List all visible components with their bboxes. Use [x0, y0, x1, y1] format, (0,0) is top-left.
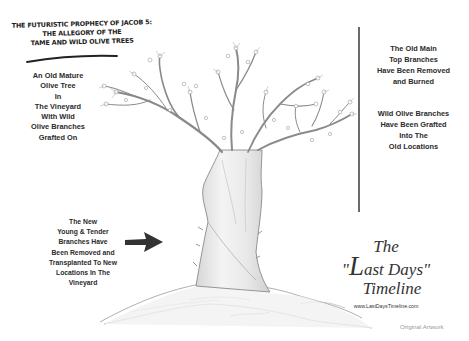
caption-line: Been Removed and	[40, 248, 126, 258]
caption-line: With Wild	[18, 112, 98, 122]
caption-line: In	[18, 92, 98, 102]
caption-line: Into The	[358, 130, 469, 141]
caption-line: Have Been Removed	[358, 65, 469, 76]
brand-quote-close: "	[423, 260, 430, 279]
caption-line: and Burned	[358, 76, 469, 87]
caption-line: Have Been Grafted	[358, 119, 469, 130]
caption-line: Vineyard	[40, 278, 126, 288]
brand-quote-open: "	[342, 260, 349, 279]
caption-line: The New	[40, 217, 126, 227]
caption-line: Transplanted To New	[40, 258, 126, 268]
branches	[104, 48, 352, 152]
caption-line: The Vineyard	[18, 102, 98, 112]
title-underline	[26, 54, 118, 64]
caption-young-branches-transplanted: The New Young & Tender Branches Have Bee…	[40, 217, 126, 288]
brand-last-days: "Last Days"	[332, 256, 440, 280]
brand-logo: The "Last Days" Timeline www.LastDaysTim…	[332, 238, 440, 310]
caption-wild-branches-grafted: Wild Olive Branches Have Been Grafted In…	[358, 108, 469, 152]
brand-url: www.LastDaysTimeline.com	[332, 302, 440, 310]
caption-line: Olive Tree	[18, 81, 98, 91]
caption-old-mature-tree: An Old Mature Olive Tree In The Vineyard…	[18, 71, 98, 143]
page-title: The Futuristic Prophecy of Jacob 5: The …	[2, 18, 163, 49]
right-arrow-icon	[124, 231, 164, 253]
caption-line: Wild Olive Branches	[358, 108, 469, 119]
caption-line: Grafted On	[18, 133, 98, 143]
caption-line: Locations In The	[40, 268, 126, 278]
brand-timeline: Timeline	[332, 280, 440, 298]
caption-line: The Old Main	[358, 43, 469, 54]
caption-line: Young & Tender	[40, 227, 126, 237]
caption-line: An Old Mature	[18, 71, 98, 81]
caption-line: Olive Branches	[18, 122, 98, 132]
caption-line: Top Branches	[358, 54, 469, 65]
brand-big-letter: L	[349, 251, 364, 281]
caption-old-branches-removed: The Old Main Top Branches Have Been Remo…	[358, 43, 469, 87]
brand-rest: ast Days	[364, 260, 423, 279]
leaf-clusters	[102, 46, 354, 142]
caption-line: Old Locations	[358, 141, 469, 152]
original-artwork-credit: Original Artwork	[400, 323, 444, 330]
caption-line: Branches Have	[40, 237, 126, 247]
trunk	[196, 150, 270, 292]
